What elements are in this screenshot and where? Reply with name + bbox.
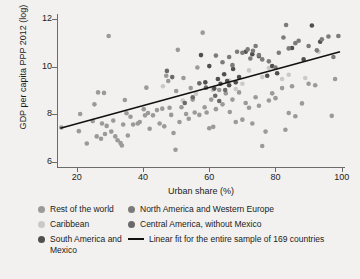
scatter-point	[151, 113, 156, 118]
scatter-point	[203, 80, 208, 85]
scatter-point	[128, 115, 133, 120]
scatter-points	[57, 14, 345, 167]
scatter-point	[233, 87, 238, 92]
legend-dot-swatch	[128, 221, 135, 228]
scatter-point	[162, 124, 167, 129]
scatter-point	[257, 53, 262, 58]
legend-item-label: Central America, without Mexico	[140, 219, 261, 230]
scatter-point	[315, 48, 320, 53]
scatter-point	[195, 65, 200, 70]
y-tick-label: 8	[32, 109, 52, 118]
scatter-point	[124, 111, 129, 116]
scatter-point	[286, 111, 291, 116]
scatter-point	[211, 125, 216, 130]
scatter-point	[260, 75, 265, 80]
scatter-point	[230, 63, 235, 68]
scatter-point	[270, 91, 275, 96]
x-tick-label: 40	[131, 173, 155, 182]
scatter-point	[184, 112, 189, 117]
scatter-point	[230, 97, 235, 102]
scatter-point	[209, 97, 214, 102]
scatter-point	[251, 49, 256, 54]
scatter-point	[284, 23, 289, 28]
legend-item[interactable]: Central America, without Mexico	[128, 219, 352, 234]
scatter-point	[137, 120, 142, 125]
scatter-point	[310, 23, 315, 28]
legend-dot-swatch	[38, 206, 45, 213]
scatter-point	[100, 121, 105, 126]
scatter-point	[220, 60, 225, 65]
scatter-point	[331, 55, 336, 60]
x-tick-label: 100	[330, 173, 354, 182]
scatter-point	[231, 67, 236, 72]
legend-item[interactable]: North America and Western Europe	[128, 204, 352, 219]
scatter-point	[146, 111, 151, 116]
scatter-point	[157, 121, 162, 126]
scatter-point	[164, 73, 169, 78]
legend-column-left: Rest of the worldCaribbeanSouth America …	[38, 204, 130, 257]
legend-item-label: Linear fit for the entire sample of 169 …	[149, 234, 324, 245]
scatter-point	[300, 101, 305, 106]
scatter-point	[320, 37, 325, 42]
scatter-point	[306, 44, 311, 49]
legend-item[interactable]: Linear fit for the entire sample of 169 …	[128, 234, 352, 249]
scatter-point	[78, 112, 83, 117]
scatter-point	[173, 147, 178, 152]
scatter-point	[197, 113, 202, 118]
scatter-point	[216, 77, 221, 82]
scatter-point	[227, 55, 232, 60]
scatter-point	[123, 98, 128, 103]
x-tick-label: 60	[197, 173, 221, 182]
scatter-point	[181, 76, 186, 81]
legend-item[interactable]: South America and Mexico	[38, 234, 130, 257]
scatter-point	[243, 101, 248, 106]
scatter-point	[286, 46, 291, 51]
legend-dot-swatch	[38, 236, 45, 243]
scatter-point	[333, 77, 338, 82]
scatter-point	[213, 93, 218, 98]
scatter-point	[247, 105, 252, 110]
scatter-point	[217, 99, 222, 104]
scatter-point	[99, 136, 104, 141]
scatter-point	[174, 89, 179, 94]
x-tick-label: 80	[263, 173, 287, 182]
scatter-point	[96, 90, 101, 95]
scatter-point	[267, 98, 272, 103]
scatter-point	[103, 132, 108, 137]
scatter-point	[227, 83, 232, 88]
scatter-point	[296, 38, 301, 43]
legend-item-label: South America and Mexico	[50, 234, 130, 256]
scatter-point	[240, 117, 245, 122]
scatter-point	[200, 30, 205, 35]
scatter-point	[281, 35, 286, 40]
scatter-point	[248, 56, 253, 61]
scatter-point	[257, 104, 262, 109]
scatter-point	[303, 76, 308, 81]
y-tick-label: 12	[32, 14, 52, 23]
scatter-point	[253, 44, 258, 49]
scatter-point	[267, 59, 272, 64]
legend-item[interactable]: Rest of the world	[38, 204, 130, 219]
scatter-point	[197, 81, 202, 86]
scatter-point	[265, 73, 270, 78]
scatter-point	[202, 105, 207, 110]
scatter-point	[280, 86, 285, 91]
scatter-point	[161, 84, 166, 89]
scatter-point	[179, 105, 184, 110]
scatter-point	[109, 129, 114, 134]
x-axis-line	[57, 167, 345, 168]
scatter-point	[220, 102, 225, 107]
legend-item[interactable]: Caribbean	[38, 219, 130, 234]
scatter-point	[276, 50, 281, 55]
scatter-point	[306, 82, 311, 87]
legend-line-swatch	[128, 238, 144, 240]
scatter-point	[165, 69, 170, 74]
scatter-point	[126, 133, 131, 138]
scatter-point	[223, 88, 228, 93]
x-tick-label: 20	[65, 173, 89, 182]
scatter-point	[286, 72, 291, 77]
scatter-point	[290, 84, 295, 89]
scatter-point	[204, 110, 209, 115]
scatter-point	[106, 34, 111, 39]
scatter-point	[313, 83, 318, 88]
